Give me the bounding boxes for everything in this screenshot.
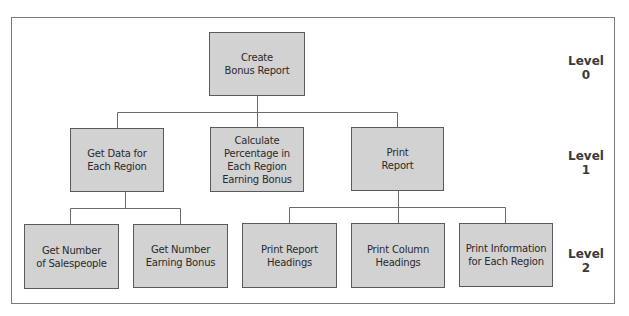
connector-getdata-to-level2 [71,192,181,224]
node-label: Print Column Headings [367,243,429,269]
level-1-label: Level 1 [562,149,610,177]
node-label: Create Bonus Report [225,51,290,77]
node-label: Print Report Headings [261,243,318,269]
node-label: Get Number of Salespeople [36,244,107,270]
node-label: Print Report [382,146,414,172]
level-2-label: Level 2 [562,247,610,275]
node-print-report: Print Report [351,127,444,191]
node-label: Print Information for Each Region [466,242,547,268]
node-get-number-of-salespeople: Get Number of Salespeople [24,224,119,289]
level-0-label: Level 0 [562,54,610,82]
node-calculate-percentage: Calculate Percentage in Each Region Earn… [210,127,304,192]
node-get-number-earning-bonus: Get Number Earning Bonus [133,224,228,288]
node-create-bonus-report: Create Bonus Report [209,32,305,96]
node-get-data-for-each-region: Get Data for Each Region [70,128,164,192]
node-print-information-for-each-region: Print Information for Each Region [459,223,553,287]
node-label: Get Number Earning Bonus [146,243,216,269]
node-print-column-headings: Print Column Headings [351,223,445,288]
node-label: Calculate Percentage in Each Region Earn… [222,134,292,186]
connector-root-to-level1 [118,96,398,128]
node-label: Get Data for Each Region [87,147,147,173]
connector-printreport-to-level2 [290,191,506,223]
node-print-report-headings: Print Report Headings [242,223,337,288]
